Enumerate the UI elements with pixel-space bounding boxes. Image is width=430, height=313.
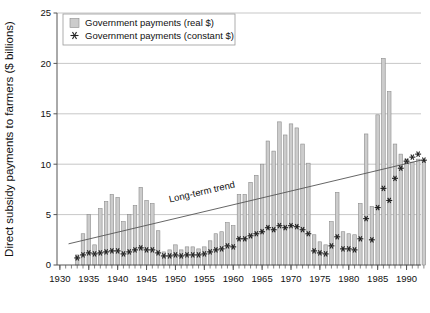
- x-tick-label: 1975: [309, 273, 330, 284]
- x-tick-label: 1980: [338, 273, 359, 284]
- bar: [422, 160, 426, 265]
- bar: [145, 200, 149, 265]
- bar: [110, 194, 114, 265]
- bar: [255, 175, 259, 265]
- bar: [411, 162, 415, 265]
- x-tick-label: 1945: [136, 273, 157, 284]
- chart-container: 1930193519401945195019551960196519701975…: [0, 0, 430, 313]
- x-tick-label: 1970: [280, 273, 301, 284]
- subsidy-payments-chart: 1930193519401945195019551960196519701975…: [0, 0, 430, 313]
- bar: [272, 151, 276, 265]
- legend-swatch-real: [70, 19, 79, 28]
- bar: [370, 207, 374, 265]
- bar: [122, 222, 126, 265]
- bar: [260, 164, 264, 265]
- y-tick-label: 20: [40, 58, 51, 69]
- x-tick-label: 1985: [367, 273, 388, 284]
- y-tick-label: 10: [40, 159, 51, 170]
- x-tick-label: 1940: [107, 273, 128, 284]
- bar: [151, 204, 155, 265]
- bar: [382, 58, 386, 265]
- bar: [237, 194, 241, 265]
- y-axis-title: Direct subsidy payments to farmers ($ bi…: [3, 21, 15, 257]
- bar: [81, 234, 85, 265]
- bar: [307, 163, 311, 265]
- x-tick-label: 1935: [78, 273, 99, 284]
- bar: [133, 206, 137, 265]
- legend-label-real: Government payments (real $): [85, 17, 214, 28]
- x-tick-label: 1930: [49, 273, 70, 284]
- x-tick-label: 1960: [223, 273, 244, 284]
- y-tick-label: 0: [46, 259, 51, 270]
- bar: [249, 182, 253, 265]
- x-tick-label: 1955: [194, 273, 215, 284]
- bar: [289, 124, 293, 265]
- x-tick-label: 1965: [252, 273, 273, 284]
- bar: [416, 159, 420, 265]
- bar: [295, 128, 299, 265]
- bar: [376, 115, 380, 265]
- bar: [335, 192, 339, 265]
- bar: [104, 202, 108, 266]
- y-tick-label: 5: [46, 209, 51, 220]
- bar: [405, 159, 409, 265]
- bar: [393, 144, 397, 265]
- bar: [283, 135, 287, 265]
- bar: [127, 215, 131, 265]
- bar: [359, 204, 363, 265]
- bar: [364, 134, 368, 265]
- bar: [266, 141, 270, 265]
- bar: [387, 92, 391, 265]
- bar: [87, 215, 91, 265]
- legend-label-constant: Government payments (constant $): [85, 30, 234, 41]
- bar: [301, 144, 305, 265]
- bar: [156, 231, 160, 265]
- y-tick-label: 25: [40, 7, 51, 18]
- x-tick-label: 1950: [165, 273, 186, 284]
- x-tick-label: 1990: [396, 273, 417, 284]
- chart-legend: Government payments (real $)Government p…: [63, 14, 235, 45]
- bar: [243, 194, 247, 265]
- bar: [116, 197, 120, 265]
- y-tick-label: 15: [40, 108, 51, 119]
